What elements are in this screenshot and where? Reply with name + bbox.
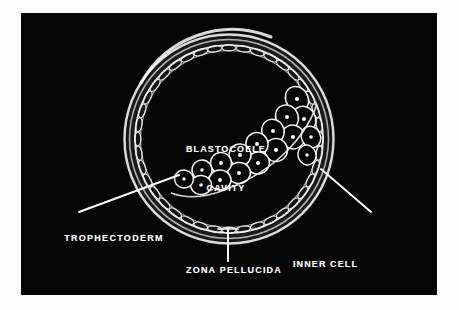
zona-pellucida-label: ZONA PELLUCIDA <box>149 264 319 277</box>
blastocyst-photo-plate: BLASTOCOELE CAVITY TROPHECTODERM INNER C… <box>21 13 437 295</box>
trophectoderm-label: TROPHECTODERM <box>49 232 179 245</box>
blastocoele-cavity-label-line2: CAVITY <box>161 182 291 195</box>
blastocoele-cavity-label: BLASTOCOELE CAVITY <box>161 117 291 221</box>
blastocoele-cavity-label-line1: BLASTOCOELE <box>161 143 291 156</box>
figure-frame: BLASTOCOELE CAVITY TROPHECTODERM INNER C… <box>0 0 459 310</box>
